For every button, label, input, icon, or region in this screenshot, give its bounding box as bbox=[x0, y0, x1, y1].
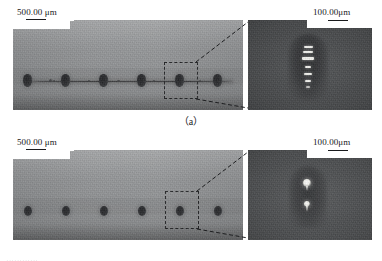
debris-speck bbox=[153, 80, 155, 82]
scale-rule-overview-b bbox=[26, 149, 46, 150]
ablation-spot bbox=[99, 74, 108, 87]
bright-dash bbox=[304, 46, 313, 48]
page-edge-text-sliver: ············ bbox=[6, 256, 126, 261]
debris-speck bbox=[49, 79, 52, 82]
panel-a: 500.00 μm 100.00μm （a） bbox=[0, 0, 382, 130]
bright-dash bbox=[302, 57, 314, 60]
cavity-feature-b bbox=[289, 166, 327, 228]
scale-label-inset-a: 100.00μm bbox=[313, 7, 350, 17]
bright-dot-tail bbox=[306, 186, 308, 191]
ablation-spot bbox=[214, 206, 222, 216]
film-grain-fine bbox=[13, 20, 243, 110]
bright-dot-tail bbox=[306, 206, 308, 212]
ablation-spot bbox=[62, 206, 70, 216]
inset-image-a bbox=[248, 20, 372, 110]
scale-label-overview-a: 500.00 μm bbox=[17, 7, 57, 17]
bright-dash bbox=[305, 66, 311, 68]
ablation-spot bbox=[137, 74, 146, 87]
figure-root: 500.00 μm 100.00μm （a） bbox=[0, 0, 382, 261]
ablation-spot bbox=[23, 74, 32, 87]
substrate-band-bottom bbox=[13, 224, 243, 240]
ablation-spot bbox=[138, 206, 146, 216]
inset-image-b bbox=[248, 150, 372, 240]
overview-image-a bbox=[13, 20, 243, 110]
roi-selection-box-a bbox=[164, 62, 198, 99]
film-grain bbox=[13, 20, 243, 110]
ablation-spot bbox=[24, 206, 32, 216]
bright-dash bbox=[305, 80, 311, 82]
debris-speck bbox=[53, 80, 55, 82]
panel-caption-a: （a） bbox=[0, 113, 382, 128]
scale-rule-inset-a bbox=[328, 20, 348, 21]
debris-speck bbox=[117, 80, 120, 82]
panel-b: 500.00 μm 100.00μm （b） bbox=[0, 130, 382, 260]
bright-dash bbox=[306, 86, 310, 88]
ablation-spot bbox=[213, 74, 222, 87]
scalebar-notch-left-a bbox=[13, 20, 70, 29]
bright-dash bbox=[303, 51, 313, 53]
debris-speck bbox=[88, 80, 90, 82]
film-grain bbox=[13, 150, 243, 240]
overview-image-b bbox=[13, 150, 243, 240]
scale-rule-inset-b bbox=[328, 150, 348, 151]
substrate-band-bottom bbox=[13, 94, 243, 110]
scale-rule-overview-a bbox=[26, 19, 46, 20]
roi-selection-box-b bbox=[165, 191, 199, 229]
scale-label-overview-b: 500.00 μm bbox=[17, 137, 57, 147]
debris-speck bbox=[199, 80, 201, 82]
scalebar-notch-left-b bbox=[13, 150, 70, 159]
bright-dash bbox=[304, 73, 312, 75]
substrate-band-mid bbox=[13, 198, 243, 214]
ablation-spot bbox=[61, 74, 70, 87]
ablation-spot bbox=[100, 206, 108, 216]
scale-label-inset-b: 100.00μm bbox=[313, 137, 350, 147]
film-grain-fine bbox=[13, 150, 243, 240]
